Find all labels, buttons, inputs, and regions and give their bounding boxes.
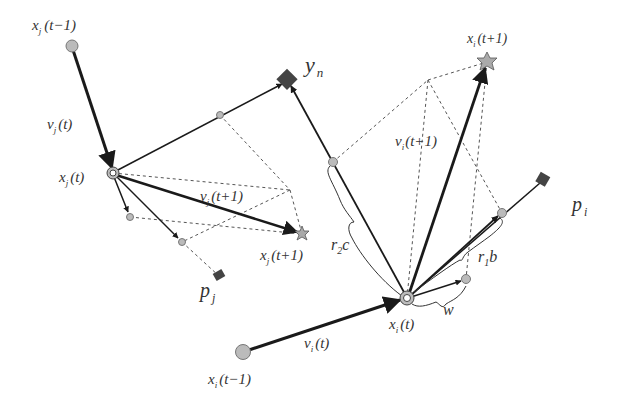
particle-j-group [66, 40, 309, 281]
xi-current-node [400, 291, 414, 305]
yn-diamond [276, 69, 297, 90]
label-pj: pj [198, 279, 216, 305]
particle-i-group [236, 52, 551, 360]
labels: xj(t−1) vj(t) xj(t) vj(t+1) xj(t+1) pj y… [31, 17, 587, 390]
label-vi-next: vi(t+1) [395, 133, 437, 152]
xi-next-star [477, 52, 497, 70]
label-w: w [443, 301, 454, 318]
label-xj-next: xj(t+1) [259, 247, 303, 266]
label-r1b: r1b [478, 248, 497, 268]
label-vj-next: vj(t+1) [200, 188, 243, 207]
pso-diagram: xj(t−1) vj(t) xj(t) vj(t+1) xj(t+1) pj y… [0, 0, 620, 406]
inertia-point-i [462, 275, 471, 284]
label-pi: pi [570, 193, 587, 219]
social-arrow-j [116, 84, 282, 171]
r2c-brace [328, 166, 402, 296]
cognitive-point-j [179, 239, 186, 246]
social-point-j [217, 112, 224, 119]
label-xi-t: xi(t) [388, 316, 414, 335]
pj-diamond [213, 269, 226, 281]
velocity-vi-next-arrow [409, 68, 485, 294]
inertia-point-j [127, 214, 134, 221]
xj-prev-node [66, 40, 78, 52]
particle-i-dashed-lines [333, 62, 502, 298]
label-r2c: r2c [331, 236, 349, 256]
label-vi-t: vi(t) [304, 335, 329, 354]
xi-prev-node [236, 345, 251, 360]
social-arrow-i [291, 86, 405, 294]
label-xi-prev: xi(t−1) [207, 371, 251, 390]
w-brace [412, 286, 466, 307]
label-xj-t: xj(t) [58, 169, 84, 188]
label-yn: yn [303, 52, 323, 80]
xj-next-star [295, 226, 309, 240]
cognitive-point-i [498, 209, 507, 218]
label-xi-next: xi(t+1) [466, 31, 507, 49]
velocity-vj-t-arrow [73, 50, 112, 168]
xj-current-node [107, 167, 119, 179]
inertia-arrow-j [114, 177, 128, 212]
label-xj-prev: xj(t−1) [31, 17, 76, 36]
social-point-i [329, 158, 338, 167]
label-vj-t: vj(t) [47, 116, 72, 135]
